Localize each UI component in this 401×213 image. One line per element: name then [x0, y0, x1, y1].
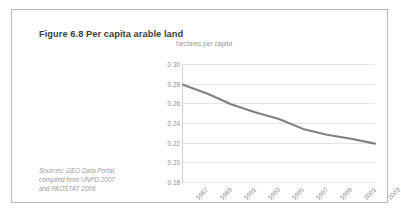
y-axis-tick-label: 0.18 [168, 179, 180, 186]
y-axis-tick-label: 0.20 [168, 159, 180, 166]
y-axis-tick-label: 0.30 [168, 61, 180, 68]
page-title: Figure 6.8 Per capita arable land [39, 29, 183, 39]
source-line-3: and FAOSTAT 2006 [39, 184, 116, 193]
chart-area: hectares per capita 0.300.280.260.240.22… [152, 40, 392, 213]
y-axis-title: hectares per capita [176, 40, 232, 47]
x-axis-tick-label: 1995 [290, 186, 305, 201]
source-line-2: compiled from UNPD 2007 [39, 175, 116, 184]
x-axis-tick-label: 1991 [242, 186, 257, 201]
source-line-1: Sources: GEO Data Portal, [39, 166, 116, 175]
x-axis-ticks: 198719891991199319951997199920012003 [183, 182, 375, 213]
x-axis-tick-label: 2001 [362, 186, 377, 201]
y-axis-tick-label: 0.28 [168, 80, 180, 87]
figure-frame: Figure 6.8 Per capita arable land Source… [11, 9, 388, 203]
x-axis-tick-label: 1999 [338, 186, 353, 201]
y-axis-tick-label: 0.24 [168, 120, 180, 127]
source-note: Sources: GEO Data Portal, compiled from … [39, 166, 116, 193]
x-axis-tick-label: 1997 [314, 186, 329, 201]
y-axis-tick-label: 0.22 [168, 139, 180, 146]
plot-area: 0.300.280.260.240.220.200.18 19871989199… [182, 64, 375, 183]
x-axis-tick-label: 1993 [266, 186, 281, 201]
x-axis-tick-label: 1987 [194, 186, 209, 201]
y-axis-tick-label: 0.26 [168, 100, 180, 107]
x-axis-tick-label: 2003 [386, 186, 401, 201]
data-line-series [183, 64, 375, 182]
x-axis-tick-label: 1989 [218, 186, 233, 201]
